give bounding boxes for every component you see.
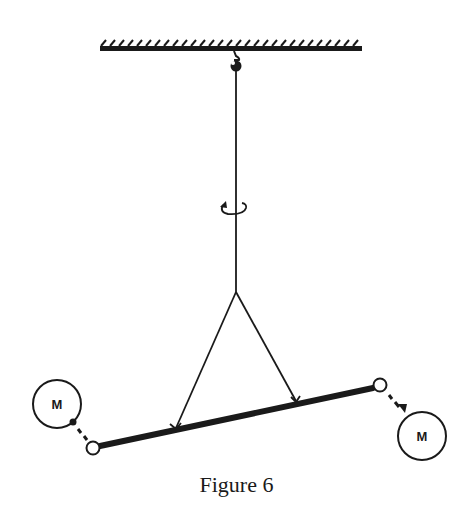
rotation-arrow-icon — [220, 201, 246, 214]
rod — [87, 379, 387, 455]
left-mass: M — [33, 380, 87, 440]
ceiling-support — [100, 40, 362, 51]
left-mass-label: M — [52, 397, 63, 412]
right-mass-label: M — [417, 429, 428, 444]
hook-icon — [231, 51, 242, 72]
left-end-sphere — [87, 442, 100, 455]
torsion-balance-diagram: M M — [0, 0, 473, 521]
right-mass: M — [389, 395, 446, 460]
right-end-sphere — [374, 379, 387, 392]
figure-caption: Figure 6 — [0, 472, 473, 498]
